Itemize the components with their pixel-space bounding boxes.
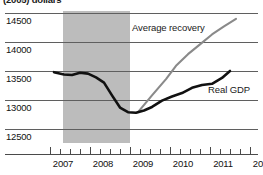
x-tick-2008-q2 [100,149,101,154]
x-tick-label-2008: 2008 [93,158,113,169]
x-tick-2008-q4 [120,149,121,154]
x-tick-2008-q3 [110,149,111,154]
x-tick-2011-q3 [230,149,231,154]
x-tick-label-2009: 2009 [133,158,153,169]
x-tick-2007-q2 [60,149,61,154]
plot-area: 14500 14000 13500 13000 12500 Average re… [0,0,263,175]
x-tick-2007-q4 [80,149,81,154]
x-tick-2011-q4 [240,149,241,154]
x-tick-2009-q4 [160,149,161,154]
x-tick-label-2012: 2012 [253,158,263,169]
x-tick-2009 [130,147,131,155]
x-tick-2008 [90,147,91,155]
x-tick-label-2007: 2007 [53,158,73,169]
x-tick-2007 [50,147,51,155]
x-tick-2010 [170,147,171,155]
x-tick-2010-q2 [180,149,181,154]
series-label-real-gdp: Real GDP [208,84,250,95]
x-tick-label-2011: 2011 [213,158,233,169]
x-tick-2011 [210,147,211,155]
x-tick-2010-q4 [200,149,201,154]
x-tick-2012 [250,147,251,155]
x-axis-line [5,154,258,155]
x-tick-2007-q3 [70,149,71,154]
x-tick-2010-q3 [190,149,191,154]
x-tick-2011-q2 [220,149,221,154]
x-tick-label-2010: 2010 [173,158,193,169]
x-tick-2009-q3 [150,149,151,154]
series-label-average-recovery: Average recovery [132,22,205,33]
chart-container: (2005) dollars 14500 14000 13500 13000 1… [0,0,263,175]
x-tick-2009-q2 [140,149,141,154]
